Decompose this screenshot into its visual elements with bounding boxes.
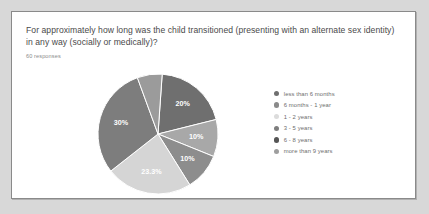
pie-slice-label: 20% (175, 99, 190, 108)
legend-label: 6 months - 1 year (284, 102, 331, 108)
pie-chart: 20%10%10%23.3%30% (96, 72, 220, 196)
legend-label: 1 - 2 years (284, 114, 313, 120)
pie-slice-label: 10% (180, 154, 195, 163)
question-title: For approximately how long was the child… (26, 24, 398, 48)
screenshot-root: For approximately how long was the child… (0, 0, 429, 214)
legend-swatch-icon (274, 102, 279, 107)
legend-swatch-icon (274, 149, 279, 154)
legend-swatch-icon (274, 114, 279, 119)
response-count: 60 responses (26, 52, 61, 60)
legend-label: more than 9 years (284, 148, 333, 154)
legend-label: 6 - 8 years (284, 137, 313, 143)
legend-swatch-icon (274, 91, 279, 96)
survey-result-card: For approximately how long was the child… (11, 11, 416, 199)
legend-item-more-than-9-years[interactable]: more than 9 years (274, 146, 404, 157)
legend-swatch-icon (274, 126, 279, 131)
legend-item-6-months-1-year[interactable]: 6 months - 1 year (274, 100, 404, 111)
legend-item-6-8-years[interactable]: 6 - 8 years (274, 134, 404, 145)
legend-swatch-icon (274, 137, 279, 142)
legend-item-1-2-years[interactable]: 1 - 2 years (274, 111, 404, 122)
legend-item-less-than-6-months[interactable]: less than 6 months (274, 88, 404, 99)
legend-label: 3 - 5 years (284, 125, 313, 131)
pie-slice-label: 23.3% (141, 167, 162, 176)
pie-slice-label: 10% (189, 132, 204, 141)
chart-legend: less than 6 months 6 months - 1 year 1 -… (274, 88, 404, 157)
legend-label: less than 6 months (284, 91, 335, 97)
scan-artifact (196, 0, 204, 8)
pie-slice-label: 30% (114, 118, 129, 127)
legend-item-3-5-years[interactable]: 3 - 5 years (274, 123, 404, 134)
chart-area: 20%10%10%23.3%30% less than 6 months 6 m… (12, 68, 415, 198)
pie-chart-svg: 20%10%10%23.3%30% (96, 72, 220, 196)
